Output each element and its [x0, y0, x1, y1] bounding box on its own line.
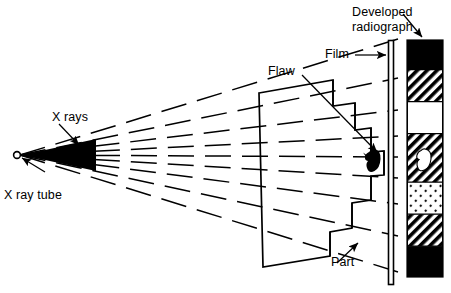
radiograph-band-2	[407, 70, 443, 102]
label-flaw: Flaw	[268, 64, 295, 79]
film-strip	[389, 41, 394, 285]
radiograph-band-5	[407, 182, 443, 214]
radiograph-band-7	[407, 246, 443, 277]
x-ray-tube-focal-spot	[14, 152, 21, 159]
label-x-ray-tube: X ray tube	[4, 188, 62, 203]
label-part: Part	[331, 255, 354, 270]
radiograph-band-3	[407, 102, 443, 134]
label-x-rays: X rays	[52, 110, 88, 125]
label-developed-radiograph-line2: radiograph	[352, 20, 413, 35]
radiograph-band-6	[407, 214, 443, 246]
diagram-canvas	[0, 0, 451, 293]
developed-radiograph-strip	[407, 40, 443, 277]
radiograph-band-1	[407, 40, 443, 70]
label-developed-radiograph-line1: Developed	[352, 5, 413, 20]
label-film: Film	[325, 47, 349, 62]
radiography-diagram: X rays X ray tube Flaw Film Part Develop…	[0, 0, 451, 293]
flaw-void	[365, 149, 381, 172]
